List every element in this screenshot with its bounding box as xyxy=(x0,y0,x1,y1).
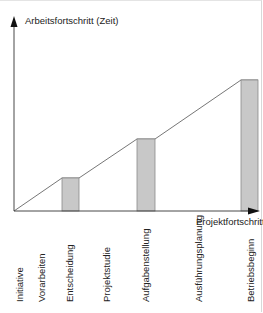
y-axis-arrow-icon xyxy=(11,16,18,27)
phase-label-entscheidung: Entscheidung xyxy=(64,244,75,302)
milestone-bar-betriebsbeginn xyxy=(241,80,258,211)
phase-label-aufgabenstellung: Aufgabenstellung xyxy=(140,229,151,302)
phase-label-projektstudie: Projektstudie xyxy=(101,247,112,302)
phase-label-initiative: Initiative xyxy=(14,267,25,302)
phase-label-betriebsbeginn: Betriebsbeginn xyxy=(245,239,256,302)
milestone-bar-aufgabenstellung xyxy=(137,139,155,211)
phase-label-vorarbeiten: Vorarbeiten xyxy=(36,253,47,302)
progress-line xyxy=(14,80,258,211)
milestone-bar-entscheidung xyxy=(62,178,79,211)
phase-label-ausfuehrungsplanung: Ausführungsplanung xyxy=(193,215,204,302)
x-axis-label: Projektfortschritt xyxy=(196,216,263,227)
y-axis-label: Arbeitsfortschritt (Zeit) xyxy=(25,15,118,26)
